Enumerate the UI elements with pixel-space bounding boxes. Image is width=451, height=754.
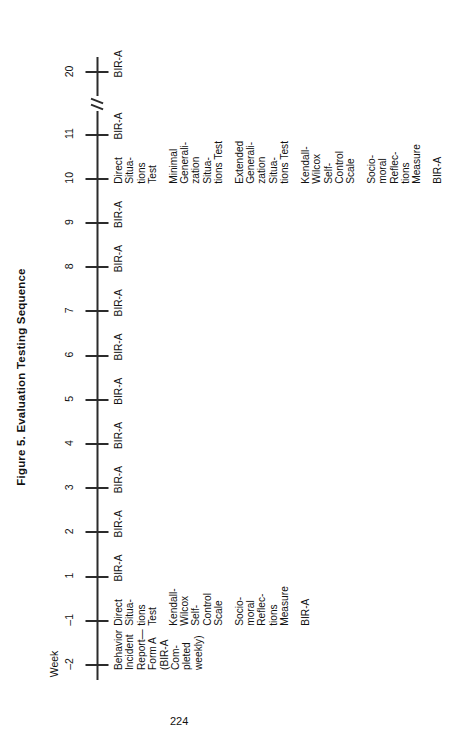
entry-line: tions	[399, 110, 410, 184]
entry-line: BIR-A	[112, 3, 123, 77]
axis-tick	[85, 134, 108, 136]
entry-line: Test	[146, 552, 157, 626]
timeline-entry: Kendall-WilcoxSelf-ControlScale	[299, 110, 356, 184]
page-number: 224	[170, 715, 188, 727]
figure-title: Figure 5. Evaluation Testing Sequence	[14, 0, 26, 754]
entry-line: Minimal	[167, 110, 178, 184]
entry-line: Reflec-	[255, 552, 266, 626]
axis-tick	[85, 664, 108, 666]
axis-tick-label: –1	[62, 600, 74, 640]
timeline-column: DirectSitua-tionsTestKendall-WilcoxSelf-…	[112, 552, 319, 626]
entry-line: Kendall-	[299, 110, 310, 184]
entry-line: Extended	[233, 110, 244, 184]
axis-tick	[85, 399, 108, 401]
timeline-entry: ExtendedGenerali-zationSitua-tions Test	[233, 110, 290, 184]
axis-tick-label: 20	[62, 51, 74, 91]
timeline-entry: Kendall-WilcoxSelf-ControlScale	[167, 552, 224, 626]
entry-line: moral	[376, 110, 387, 184]
axis-rule	[96, 57, 98, 680]
axis-tick-label: 4	[62, 423, 74, 463]
entry-line: Scale	[344, 110, 355, 184]
figure-canvas: Figure 5. Evaluation Testing Sequence –2…	[0, 0, 451, 754]
axis-tick-label: 1	[62, 556, 74, 596]
entry-line: Self-	[189, 552, 200, 626]
timeline-entry: BIR-A	[431, 110, 442, 184]
entry-line: zation	[255, 110, 266, 184]
axis-tick	[85, 355, 108, 357]
entry-line: Generali-	[244, 110, 255, 184]
entry-line: Self-	[322, 110, 333, 184]
axis-tick	[85, 71, 108, 73]
entry-line: Test	[146, 110, 157, 184]
entry-line: Wilcox	[310, 110, 321, 184]
entry-line: tions	[135, 552, 146, 626]
entry-line: zation	[189, 110, 200, 184]
axis-tick-label: –2	[62, 644, 74, 684]
entry-line: Control	[201, 552, 212, 626]
entry-line: tions Test	[278, 110, 289, 184]
axis-tick	[85, 620, 108, 622]
entry-line: tions Test	[212, 110, 223, 184]
axis-tick	[85, 222, 108, 224]
timeline-entry: Socio-moralReflec-tionsMeasure	[365, 110, 422, 184]
entry-line: Kendall-	[167, 552, 178, 626]
entry-line: Situa-	[201, 110, 212, 184]
axis-tick-label: 11	[62, 114, 74, 154]
axis-tick-label: 8	[62, 246, 74, 286]
entry-line: tions	[267, 552, 278, 626]
timeline-entry: BIR-A	[112, 3, 123, 77]
entry-line: moral	[244, 552, 255, 626]
timeline-entry: BIR-A	[299, 552, 310, 626]
entry-line: Reflec-	[388, 110, 399, 184]
entry-line: Socio-	[365, 110, 376, 184]
entry-line: Wilcox	[178, 552, 189, 626]
timeline-column: BIR-A	[112, 3, 132, 77]
entry-line: Measure	[410, 110, 421, 184]
entry-line: BIR-A	[299, 552, 310, 626]
entry-line: Situa-	[267, 110, 278, 184]
axis-tick	[85, 178, 108, 180]
axis-tick	[85, 443, 108, 445]
entry-line: Scale	[212, 552, 223, 626]
axis-tick	[85, 576, 108, 578]
scanned-page: Figure 5. Evaluation Testing Sequence –2…	[0, 0, 451, 754]
axis-tick	[85, 531, 108, 533]
axis-tick-label: 9	[62, 202, 74, 242]
entry-line: BIR-A	[431, 110, 442, 184]
axis-tick-label: 2	[62, 511, 74, 551]
axis-tick	[85, 266, 108, 268]
axis-unit-label: Week	[47, 641, 59, 687]
axis-tick-label: 10	[62, 158, 74, 198]
entry-line: Generali-	[178, 110, 189, 184]
entry-line: Control	[333, 110, 344, 184]
entry-line: Measure	[278, 552, 289, 626]
axis-tick-label: 7	[62, 290, 74, 330]
timeline-column: DirectSitua-tionsTestMinimalGenerali-zat…	[112, 110, 451, 184]
timeline-entry: MinimalGenerali-zationSitua-tions Test	[167, 110, 224, 184]
entry-line: tions	[135, 110, 146, 184]
axis-tick	[85, 487, 108, 489]
axis-tick	[85, 310, 108, 312]
axis-tick-label: 5	[62, 379, 74, 419]
timeline-entry: Socio-moralReflec-tionsMeasure	[233, 552, 290, 626]
entry-line: Socio-	[233, 552, 244, 626]
axis-tick-label: 3	[62, 467, 74, 507]
axis-tick-label: 6	[62, 335, 74, 375]
